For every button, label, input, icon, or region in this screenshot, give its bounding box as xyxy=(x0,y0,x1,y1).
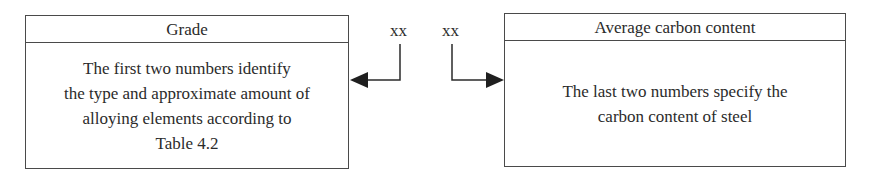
grade-box-body: The first two numbers identify the type … xyxy=(26,43,348,168)
left-arrowhead-icon xyxy=(350,72,368,88)
first-code-label: xx xyxy=(390,21,407,41)
right-connector-line xyxy=(452,44,486,80)
grade-box-line: the type and approximate amount of xyxy=(64,81,310,106)
grade-box-title: Grade xyxy=(26,16,348,43)
grade-box-line: alloying elements according to xyxy=(64,106,310,131)
carbon-content-box-body: The last two numbers specify the carbon … xyxy=(505,41,845,166)
carbon-content-box: Average carbon content The last two numb… xyxy=(504,13,846,167)
second-code-label: xx xyxy=(442,21,459,41)
carbon-content-box-title: Average carbon content xyxy=(505,14,845,41)
grade-box-line: Table 4.2 xyxy=(64,131,310,156)
left-connector-line xyxy=(368,44,400,80)
grade-box: Grade The first two numbers identify the… xyxy=(25,15,349,169)
grade-box-line: The first two numbers identify xyxy=(64,56,310,81)
carbon-content-box-line: The last two numbers specify the xyxy=(562,79,787,104)
carbon-content-box-line: carbon content of steel xyxy=(562,104,787,129)
right-arrowhead-icon xyxy=(486,72,504,88)
